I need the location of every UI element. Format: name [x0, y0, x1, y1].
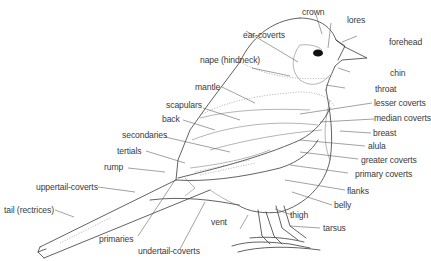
label-vent: vent: [211, 217, 227, 227]
label-greater-coverts: greater coverts: [361, 155, 417, 165]
label-back: back: [162, 114, 180, 124]
label-primaries: primaries: [99, 234, 133, 244]
label-nape: nape (hindneck): [200, 55, 260, 65]
label-scapulars: scapulars: [166, 100, 202, 110]
label-flanks: flanks: [347, 186, 369, 196]
label-rump: rump: [104, 162, 123, 172]
label-chin: chin: [390, 68, 405, 78]
label-uppertail-coverts: uppertail-coverts: [36, 182, 98, 192]
label-alula: alula: [368, 141, 386, 151]
label-secondaries: secondaries: [122, 130, 167, 140]
label-forehead: forehead: [389, 37, 422, 47]
label-belly: belly: [334, 200, 351, 210]
label-median-coverts: median coverts: [374, 113, 431, 123]
label-throat: throat: [375, 84, 396, 94]
label-tertials: tertials: [117, 146, 142, 156]
label-crown: crown: [302, 7, 324, 17]
label-mantle: mantle: [195, 82, 220, 92]
label-thigh: thigh: [290, 210, 308, 220]
label-lores: lores: [347, 15, 365, 25]
label-ear-coverts: ear-coverts: [243, 30, 285, 40]
label-undertail-coverts: undertail-coverts: [138, 246, 200, 256]
label-tail: tail (rectrices): [4, 205, 54, 215]
label-breast: breast: [373, 128, 396, 138]
label-lesser-coverts: lesser coverts: [374, 98, 426, 108]
label-tarsus: tarsus: [323, 223, 346, 233]
label-primary-coverts: primary coverts: [355, 169, 412, 179]
